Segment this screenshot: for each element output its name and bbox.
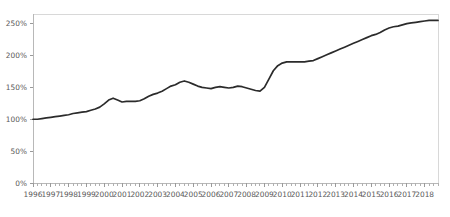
x-tick-label: 2015 [362,190,381,199]
y-axis: 0%50%100%150%200%250% [6,14,33,188]
x-tick-label: 1997 [41,190,60,199]
y-tick-label: 100% [6,115,27,124]
x-tick-label: 2003 [148,190,167,199]
plot-area-border [33,14,438,183]
x-tick-label: 2017 [397,190,416,199]
x-tick-label: 2001 [113,190,132,199]
x-tick-label: 2009 [255,190,274,199]
x-tick-label: 1996 [24,190,43,199]
chart-canvas: 0%50%100%150%200%250% 199619971998199920… [0,0,450,217]
x-tick-label: 2008 [237,190,256,199]
line-chart-figure: 0%50%100%150%200%250% 199619971998199920… [0,0,450,217]
x-tick-label: 2012 [308,190,327,199]
plot-frame [33,14,438,183]
x-tick-label: 2011 [291,190,310,199]
x-tick-label: 2014 [344,190,363,199]
y-tick-label: 200% [6,51,27,60]
x-tick-label: 1999 [77,190,96,199]
x-tick-label: 1998 [59,190,78,199]
x-tick-label: 2016 [380,190,399,199]
y-tick-label: 250% [6,19,27,28]
x-tick-label: 2010 [273,190,292,199]
data-series-group [33,20,438,119]
x-tick-label: 2004 [166,190,185,199]
x-tick-label: 2013 [326,190,345,199]
y-tick-label: 50% [11,147,27,156]
y-tick-label: 150% [6,83,27,92]
x-tick-label: 2002 [130,190,149,199]
y-tick-label: 0% [15,179,27,188]
x-tick-label: 2005 [184,190,203,199]
x-tick-label: 2006 [202,190,221,199]
x-tick-label: 2000 [95,190,114,199]
x-axis: 1996199719981999200020012002200320042005… [24,183,438,199]
series-line-index [33,20,438,119]
x-tick-label: 2007 [219,190,238,199]
x-tick-label: 2018 [415,190,434,199]
